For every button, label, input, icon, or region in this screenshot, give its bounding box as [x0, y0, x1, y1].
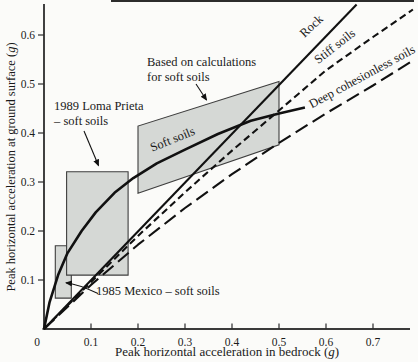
y-axis-title: Peak horizontal acceleration at ground s…: [4, 42, 19, 291]
y-axis-title-g: g: [4, 47, 18, 53]
x-axis-title-text: Peak horizontal acceleration in bedrock …: [115, 344, 328, 359]
data-region-1: [67, 172, 129, 275]
y-tick-label: 0.1: [21, 274, 36, 286]
y-tick-label: 0.3: [21, 176, 36, 188]
y-tick-label: 0.6: [21, 29, 36, 41]
y-axis-title-close: ): [4, 42, 18, 46]
x-axis-title: Peak horizontal acceleration in bedrock …: [112, 344, 342, 359]
annotation-arrow-1: [84, 131, 99, 166]
loma-prieta-annotation-line1: 1989 Loma Prieta: [54, 99, 144, 114]
annotation-arrow-0: [196, 84, 207, 100]
y-tick-label: 0.5: [21, 78, 36, 90]
y-tick-label: 0.2: [21, 225, 36, 237]
x-tick-label: 0.7: [366, 336, 381, 348]
calculations-annotation-line1: Based on calculations: [147, 55, 256, 70]
calculations-annotation: Based on calculations for soft soils: [147, 55, 256, 85]
loma-prieta-annotation-line2: – soft soils: [54, 114, 144, 129]
x-tick-label: 0: [34, 336, 40, 348]
x-axis-title-close: ): [335, 344, 339, 359]
y-tick-label: 0.4: [21, 127, 36, 139]
y-axis-title-text: Peak horizontal acceleration at ground s…: [4, 53, 18, 292]
series-line-0: [44, 5, 357, 329]
loma-prieta-annotation: 1989 Loma Prieta – soft soils: [54, 99, 144, 129]
mexico-annotation: 1985 Mexico – soft soils: [96, 284, 220, 299]
x-tick-label: 0.1: [84, 336, 99, 348]
calculations-annotation-line2: for soft soils: [147, 70, 256, 85]
